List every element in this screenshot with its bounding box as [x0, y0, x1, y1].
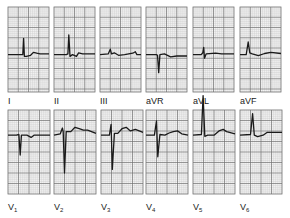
lead-label-subscript: 3: [107, 207, 111, 213]
ecg-lead-aVR: aVR: [146, 7, 187, 106]
lead-label: V5: [193, 202, 203, 213]
ecg-figure: IIIIIIaVRaVLaVFV1V2V3V4V5V6: [0, 0, 290, 218]
lead-label-text: aVF: [240, 96, 257, 106]
lead-label-text: I: [8, 96, 11, 106]
lead-label: III: [100, 96, 108, 106]
ecg-lead-V2: V2: [54, 110, 96, 213]
lead-label-subscript: 4: [152, 207, 156, 213]
lead-label-text: III: [100, 96, 108, 106]
lead-label: V4: [146, 202, 156, 213]
lead-label-text: II: [54, 96, 59, 106]
ecg-lead-II: II: [54, 7, 95, 106]
ecg-lead-V4: V4: [146, 110, 188, 213]
ecg-lead-III: III: [100, 7, 141, 106]
lead-label-subscript: 1: [14, 207, 18, 213]
lead-label: aVF: [240, 96, 257, 106]
lead-label-text: aVL: [193, 96, 209, 106]
lead-label: aVL: [193, 96, 209, 106]
lead-label: V1: [8, 202, 18, 213]
ecg-lead-aVL: aVL: [193, 7, 234, 106]
lead-label: V2: [54, 202, 64, 213]
ecg-panels: IIIIIIaVRaVLaVFV1V2V3V4V5V6: [8, 7, 282, 213]
ecg-lead-I: I: [8, 7, 49, 106]
ecg-lead-aVF: aVF: [240, 7, 281, 106]
lead-label-text: aVR: [146, 96, 164, 106]
ecg-lead-V5: V5: [193, 96, 235, 213]
lead-label: I: [8, 96, 11, 106]
lead-label-subscript: 5: [199, 207, 203, 213]
ecg-lead-V6: V6: [240, 110, 282, 213]
lead-label: V3: [101, 202, 111, 213]
lead-label-subscript: 6: [246, 207, 250, 213]
ecg-lead-V1: V1: [8, 110, 50, 213]
ecg-lead-V3: V3: [101, 110, 143, 213]
lead-label: II: [54, 96, 59, 106]
lead-label: aVR: [146, 96, 164, 106]
lead-label-subscript: 2: [60, 207, 64, 213]
lead-label: V6: [240, 202, 250, 213]
